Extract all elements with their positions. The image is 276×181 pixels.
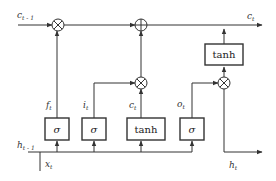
lstm-cell-diagram: σ σ tanh σ tanh ct - 1 ct ft it ct ot ht…	[0, 0, 276, 181]
c-cand-label: ct	[129, 100, 137, 111]
f-gate-label: ft	[45, 100, 52, 111]
output-sigma-text: σ	[189, 124, 197, 135]
cell-tanh-text: tanh	[213, 49, 236, 60]
input-multiply-icon	[135, 77, 147, 89]
input-sigma-text: σ	[91, 124, 99, 135]
output-multiply-icon	[218, 77, 230, 89]
output-gate-line	[192, 83, 218, 118]
x-in-label: xt	[45, 159, 53, 170]
forget-sigma-text: σ	[54, 124, 62, 135]
o-gate-label: ot	[177, 99, 185, 110]
cell-add-icon	[135, 19, 147, 31]
i-gate-label: it	[83, 100, 89, 111]
c-prev-label: ct - 1	[17, 10, 34, 21]
h-prev-label: ht - 1	[17, 140, 35, 151]
candidate-tanh-text: tanh	[135, 124, 158, 135]
h-out-line	[224, 89, 262, 152]
h-out-label: ht	[229, 160, 238, 171]
c-out-label: ct	[247, 11, 255, 22]
forget-multiply-icon	[52, 19, 64, 31]
